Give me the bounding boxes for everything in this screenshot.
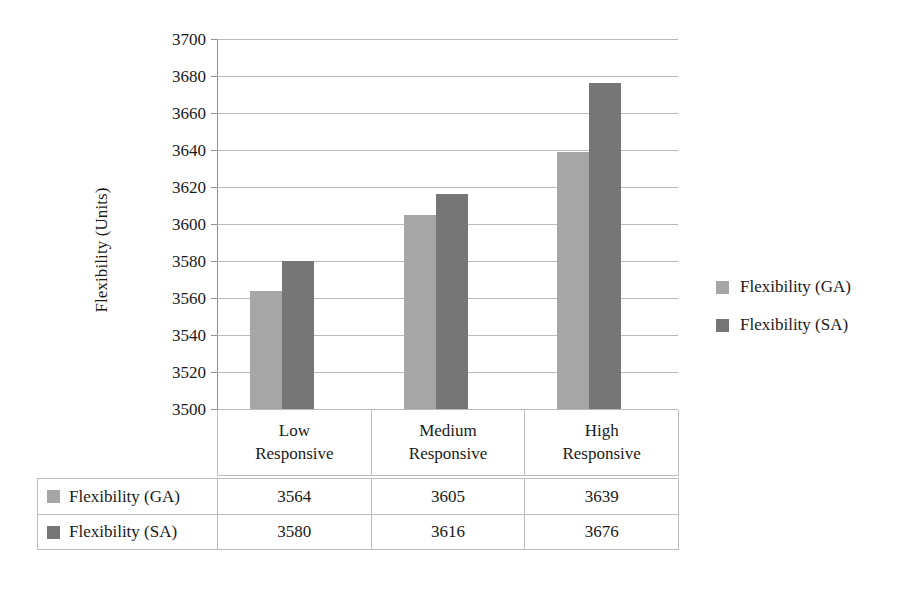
data-table: Flexibility (GA)356436053639Flexibility … [37, 478, 679, 550]
legend-color-swatch-icon [716, 281, 729, 294]
category-axis-labels: LowResponsiveMediumResponsiveHighRespons… [217, 410, 679, 476]
table-value-cell: 3605 [372, 479, 526, 514]
table-row: Flexibility (SA)358036163676 [38, 514, 678, 549]
legend-color-swatch-icon [716, 319, 729, 332]
legend-item: Flexibility (SA) [716, 306, 886, 344]
table-series-cell: Flexibility (GA) [38, 479, 218, 514]
bar [436, 194, 468, 409]
bar [282, 261, 314, 409]
legend-label: Flexibility (GA) [740, 277, 851, 297]
legend-item: Flexibility (GA) [716, 268, 886, 306]
y-axis-tick-label: 3680 [172, 68, 206, 85]
category-label-line: Low [279, 420, 310, 442]
y-axis-tick-label: 3560 [172, 290, 206, 307]
chart-legend: Flexibility (GA)Flexibility (SA) [716, 268, 886, 344]
bar [557, 152, 589, 409]
y-axis-tick-label: 3500 [172, 401, 206, 418]
bar-group [524, 39, 678, 409]
y-axis-tick-label: 3640 [172, 142, 206, 159]
y-axis-tick-label: 3520 [172, 364, 206, 381]
table-value-cell: 3616 [372, 515, 526, 549]
y-axis-tick-label: 3600 [172, 216, 206, 233]
bar-group [217, 39, 371, 409]
y-axis-tick-label: 3580 [172, 253, 206, 270]
series-color-swatch-icon [47, 526, 60, 539]
table-row: Flexibility (GA)356436053639 [38, 479, 678, 514]
bar [404, 215, 436, 409]
table-series-label: Flexibility (GA) [69, 487, 180, 507]
bar-chart-figure: Flexibility (Units) 37003680366036403620… [0, 0, 900, 594]
table-value-cell: 3580 [218, 515, 372, 549]
category-label-line: High [585, 420, 619, 442]
plot-area: 3700368036603640362036003580356035403520… [217, 39, 678, 409]
category-label-1: LowResponsive [218, 410, 371, 475]
category-label-2: MediumResponsive [371, 410, 525, 475]
y-axis-tick-label: 3620 [172, 179, 206, 196]
category-label-3: HighResponsive [524, 410, 678, 475]
bar-group [371, 39, 525, 409]
category-label-line: Responsive [409, 443, 487, 465]
y-axis-tick-label: 3700 [172, 31, 206, 48]
category-label-line: Responsive [255, 443, 333, 465]
y-axis-tick-label: 3660 [172, 105, 206, 122]
category-label-line: Responsive [562, 443, 640, 465]
y-axis-title: Flexibility (Units) [92, 150, 114, 350]
table-value-cell: 3676 [525, 515, 678, 549]
bar [589, 83, 621, 409]
table-series-cell: Flexibility (SA) [38, 515, 218, 549]
series-color-swatch-icon [47, 490, 60, 503]
table-series-label: Flexibility (SA) [69, 522, 177, 542]
y-axis-tick-label: 3540 [172, 327, 206, 344]
table-value-cell: 3639 [525, 479, 678, 514]
table-value-cell: 3564 [218, 479, 372, 514]
legend-label: Flexibility (SA) [740, 315, 848, 335]
category-label-line: Medium [419, 420, 477, 442]
bar [250, 291, 282, 409]
